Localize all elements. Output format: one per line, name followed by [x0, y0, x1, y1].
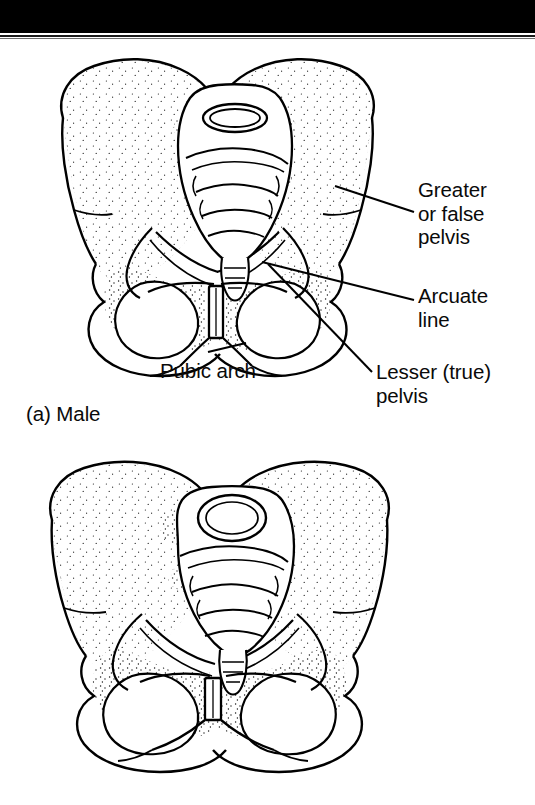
female-left-obturator-foramen	[103, 674, 198, 755]
caption-male-panel: (a) Male	[26, 402, 100, 426]
label-arcuate-line: Arcuate line	[418, 284, 488, 331]
label-pubic-arch: Pubic arch	[160, 359, 256, 383]
label-greater-false-pelvis: Greater or false pelvis	[418, 178, 487, 249]
figure-page: Greater or false pelvis Arcuate line Les…	[0, 0, 535, 805]
label-lesser-true-pelvis: Lesser (true) pelvis	[376, 360, 491, 407]
male-pelvis-illustration	[55, 55, 380, 376]
female-pelvis-illustration	[45, 455, 395, 772]
